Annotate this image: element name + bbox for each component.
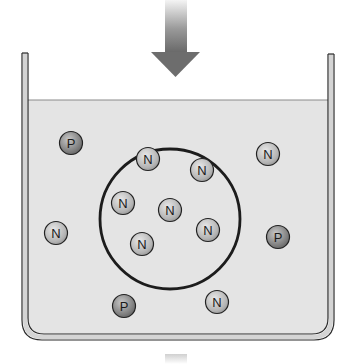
svg-text:N: N — [143, 152, 152, 167]
particle-n: N — [206, 291, 229, 314]
svg-text:N: N — [203, 223, 212, 238]
particle-n: N — [131, 233, 154, 256]
particle-p: P — [113, 295, 136, 318]
svg-text:P: P — [274, 230, 283, 245]
particle-n: N — [112, 192, 135, 215]
particle-n: N — [191, 159, 214, 182]
svg-text:N: N — [197, 163, 206, 178]
svg-text:N: N — [165, 203, 174, 218]
svg-text:N: N — [263, 147, 272, 162]
particle-n: N — [197, 219, 220, 242]
particle-p: P — [60, 132, 83, 155]
particle-n: N — [137, 148, 160, 171]
svg-text:P: P — [67, 136, 76, 151]
svg-text:P: P — [120, 299, 129, 314]
svg-text:N: N — [137, 237, 146, 252]
svg-text:N: N — [118, 196, 127, 211]
particle-n: N — [45, 222, 68, 245]
bottom-arrow-stub — [165, 354, 187, 364]
particle-p: P — [267, 226, 290, 249]
svg-text:N: N — [51, 226, 60, 241]
particle-n: N — [257, 143, 280, 166]
down-arrow-icon — [151, 0, 200, 77]
beaker-diagram: P N N N N N N N — [0, 0, 345, 364]
svg-text:N: N — [212, 295, 221, 310]
particle-n: N — [159, 199, 182, 222]
